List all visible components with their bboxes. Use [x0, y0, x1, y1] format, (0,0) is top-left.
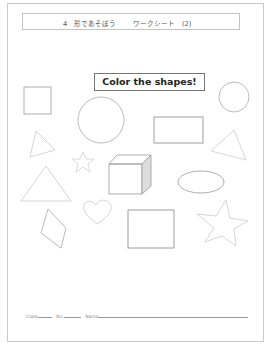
student-info-line: Class No. Name: [26, 313, 248, 319]
star-large-shape: [197, 200, 248, 246]
triangle-right-shape: [211, 130, 246, 160]
triangle-large-shape: [21, 166, 71, 201]
no-label: No.: [56, 314, 63, 319]
circle-large-shape: [78, 97, 124, 143]
rectangle-top-shape: [154, 117, 203, 143]
shapes-canvas: [0, 0, 272, 347]
square-bottom-shape: [128, 210, 174, 248]
class-label: Class: [26, 314, 38, 319]
class-field[interactable]: [38, 313, 52, 318]
name-label: Name: [85, 314, 98, 319]
heart-shape: [84, 200, 112, 224]
cube-shape: [109, 155, 151, 194]
oval-shape: [178, 171, 224, 193]
square-small-shape: [24, 87, 51, 114]
rhombus-shape: [41, 209, 66, 248]
no-field[interactable]: [64, 313, 81, 318]
name-field[interactable]: [98, 313, 248, 318]
circle-small-shape: [219, 82, 249, 112]
triangle-left-small-shape: [30, 131, 55, 157]
star-small-shape: [72, 152, 94, 172]
